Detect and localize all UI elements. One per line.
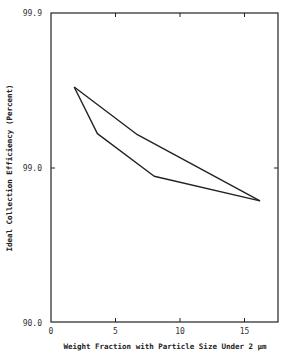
x-tick-label: 10 — [175, 327, 185, 336]
tick-labels: 05101599.999.090.0 — [23, 9, 250, 336]
chart: 05101599.999.090.0 Weight Fraction with … — [0, 0, 287, 354]
x-axis-label: Weight Fraction with Particle Size Under… — [63, 342, 267, 351]
ticks — [51, 13, 278, 322]
series-line — [74, 87, 260, 201]
x-tick-label: 5 — [113, 327, 118, 336]
x-tick-label: 15 — [240, 327, 250, 336]
plot-frame — [51, 13, 278, 322]
y-tick-label: 90.0 — [23, 319, 42, 328]
y-tick-label: 99.9 — [23, 9, 42, 18]
y-axis-label: Ideal Collection Efficiency (Percent) — [5, 84, 14, 251]
data-series — [74, 87, 260, 201]
x-tick-label: 0 — [49, 327, 54, 336]
y-tick-label: 99.0 — [23, 164, 42, 173]
series-line — [74, 87, 260, 201]
